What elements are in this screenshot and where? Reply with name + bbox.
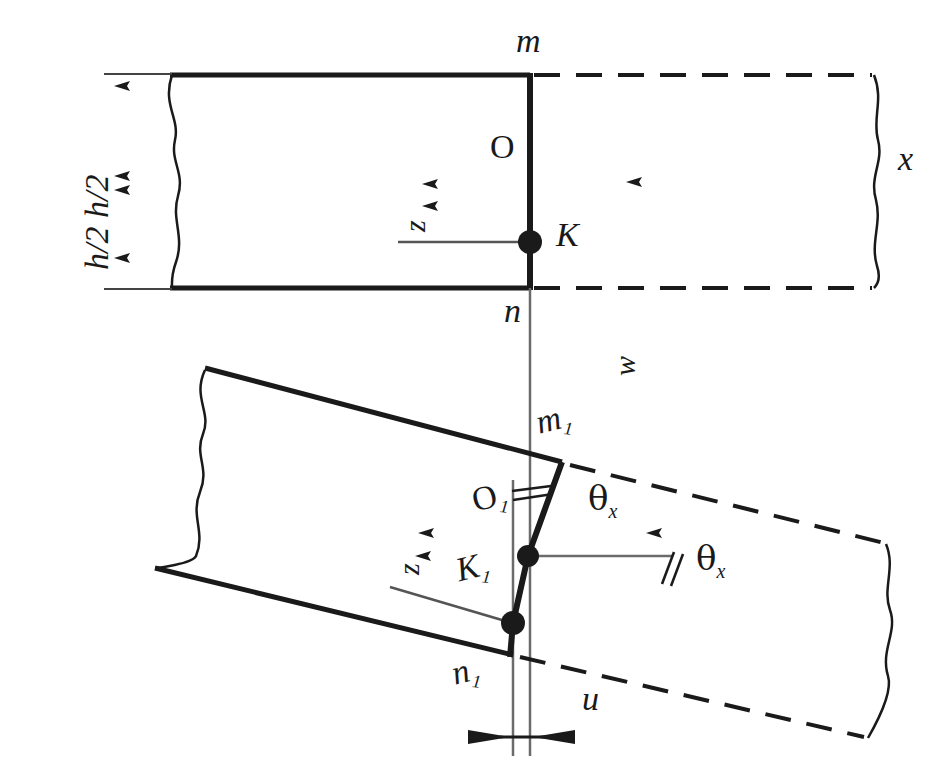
bottom-block-left-break-line bbox=[155, 370, 205, 568]
top-block-group bbox=[104, 73, 879, 290]
label-O: O bbox=[490, 128, 515, 166]
z-bottom-leader-line bbox=[390, 587, 512, 623]
parallel-mark-2 bbox=[671, 554, 683, 586]
label-u: u bbox=[582, 680, 599, 718]
label-n: n bbox=[504, 292, 521, 330]
point-K1-dot bbox=[501, 611, 525, 635]
label-z-bottom: z bbox=[392, 563, 426, 575]
label-theta-x-lower-base: θ bbox=[696, 538, 716, 578]
label-theta-x-upper-base: θ bbox=[588, 478, 608, 518]
label-theta-x-upper: θx bbox=[588, 478, 617, 523]
bottom-block-group bbox=[155, 368, 892, 744]
label-x: x bbox=[898, 140, 913, 178]
bottom-block-right-break-line bbox=[868, 544, 892, 738]
point-O1-dot bbox=[517, 545, 539, 567]
point-K-dot bbox=[518, 230, 542, 254]
top-block-right-break-line bbox=[874, 75, 879, 288]
angle-tick-mark-1 bbox=[512, 486, 551, 491]
label-m1-subscript: 1 bbox=[562, 418, 573, 440]
bottom-block-top-edge bbox=[205, 368, 562, 462]
bottom-block-bottom-dashed-edge bbox=[520, 657, 864, 737]
technical-diagram-figure: h/2 h/2 m n O K z x w m1 n1 O1 K1 z θx θ… bbox=[0, 0, 952, 782]
label-theta-x-lower-subscript: x bbox=[716, 560, 725, 582]
label-m: m bbox=[516, 22, 541, 60]
label-theta-x-upper-subscript: x bbox=[608, 500, 617, 522]
label-w: w bbox=[608, 356, 642, 376]
label-h-half: h/2 h/2 bbox=[78, 175, 116, 270]
label-z-top: z bbox=[398, 220, 432, 232]
label-K: K bbox=[556, 216, 579, 254]
label-K1-subscript: 1 bbox=[481, 566, 492, 588]
top-block-left-break-line bbox=[169, 75, 180, 288]
label-theta-x-lower: θx bbox=[696, 538, 725, 583]
label-O1-subscript: 1 bbox=[498, 496, 509, 518]
